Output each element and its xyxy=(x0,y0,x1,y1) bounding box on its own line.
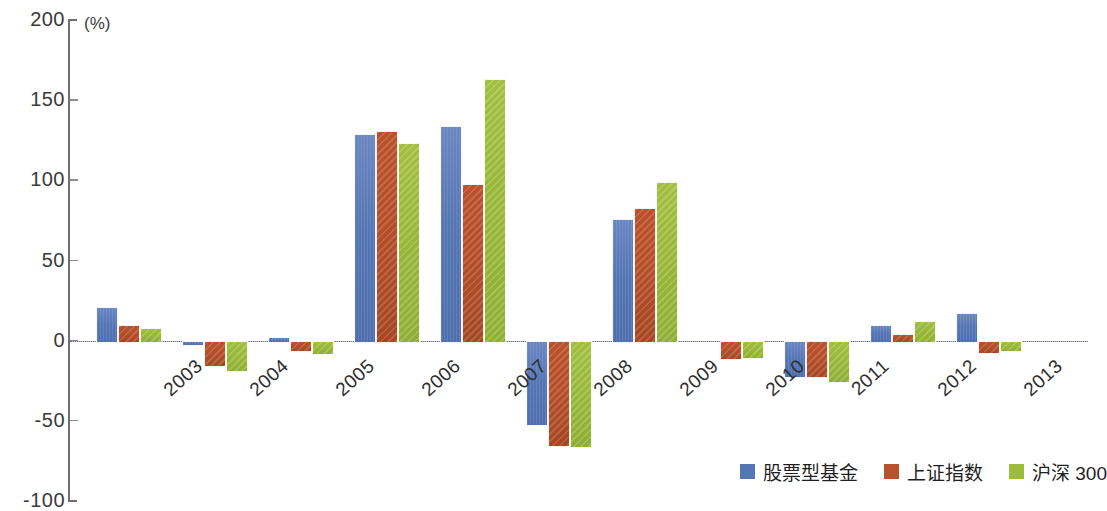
legend-item-3[interactable]: 沪深 300 xyxy=(1009,458,1107,485)
legend-label: 上证指数 xyxy=(907,458,983,485)
x-axis-label-2006: 2006 xyxy=(417,355,465,401)
bar-2009-series-3 xyxy=(656,182,678,343)
legend-label: 股票型基金 xyxy=(763,458,858,485)
y-axis-tick-label: 0 xyxy=(0,330,65,350)
y-axis-tick-label: -100 xyxy=(0,490,65,510)
legend-item-1[interactable]: 股票型基金 xyxy=(740,458,858,485)
bar-2007-series-1 xyxy=(440,126,462,343)
bar-2009-series-1 xyxy=(612,219,634,343)
bar-2012-series-2 xyxy=(892,334,914,342)
legend-label: 沪深 300 xyxy=(1032,458,1107,485)
bar-2011-series-3 xyxy=(828,341,850,383)
bar-2008-series-3 xyxy=(570,341,592,449)
x-axis-label-2008: 2008 xyxy=(589,355,637,401)
bar-2010-series-2 xyxy=(720,341,742,361)
y-axis-tick-label: 200 xyxy=(0,9,65,29)
bar-2003-series-2 xyxy=(118,325,140,343)
legend-item-2[interactable]: 上证指数 xyxy=(884,458,983,485)
x-axis-label-2012: 2012 xyxy=(933,355,981,401)
bar-2013-series-2 xyxy=(978,341,1000,354)
x-axis-label-2011: 2011 xyxy=(847,355,894,400)
bar-2012-series-1 xyxy=(870,325,892,343)
bar-2004-series-3 xyxy=(226,341,248,372)
bar-2009-series-2 xyxy=(634,208,656,343)
bar-2006-series-2 xyxy=(376,131,398,343)
bar-2003-series-3 xyxy=(140,328,162,343)
y-axis-tick-label: 50 xyxy=(0,250,65,270)
y-axis-tick-label: 100 xyxy=(0,169,65,189)
plot-area: 2003200420052006200720082009201020112012… xyxy=(70,20,1090,501)
bar-2007-series-3 xyxy=(484,79,506,342)
bar-2005-series-3 xyxy=(312,341,334,356)
x-axis-label-2005: 2005 xyxy=(331,355,379,401)
x-axis-label-2013: 2013 xyxy=(1019,355,1067,401)
bar-2011-series-2 xyxy=(806,341,828,378)
bar-2013-series-3 xyxy=(1000,341,1022,353)
bar-2012-series-3 xyxy=(914,321,936,342)
bar-2013-series-1 xyxy=(956,313,978,342)
x-axis-label-2003: 2003 xyxy=(159,355,207,401)
bar-2010-series-3 xyxy=(742,341,764,359)
legend-swatch-orange xyxy=(884,464,899,479)
bar-2007-series-2 xyxy=(462,184,484,343)
x-axis-label-2009: 2009 xyxy=(675,355,723,401)
legend-swatch-green xyxy=(1009,464,1024,479)
bar-2008-series-2 xyxy=(548,341,570,447)
y-axis-tick-label: 150 xyxy=(0,89,65,109)
bar-2004-series-2 xyxy=(204,341,226,367)
y-axis-tick-label: -50 xyxy=(0,410,65,430)
legend-swatch-blue xyxy=(740,464,755,479)
bar-2005-series-1 xyxy=(268,337,290,342)
bar-2003-series-1 xyxy=(96,307,118,343)
bar-2006-series-1 xyxy=(354,134,376,343)
chart-legend: 股票型基金上证指数沪深 300 xyxy=(740,458,1107,485)
bar-2005-series-2 xyxy=(290,341,312,353)
bar-2004-series-1 xyxy=(182,341,204,346)
bar-2006-series-3 xyxy=(398,143,420,342)
x-axis-label-2004: 2004 xyxy=(245,355,293,401)
